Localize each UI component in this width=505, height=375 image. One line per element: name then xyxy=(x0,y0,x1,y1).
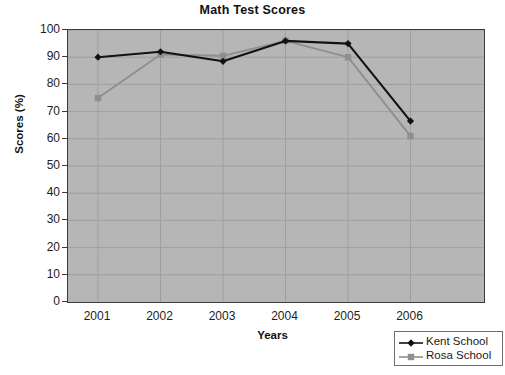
y-tick-mark xyxy=(62,219,67,220)
x-tick-label: 2005 xyxy=(317,309,377,323)
series-group xyxy=(94,37,414,139)
y-tick-mark xyxy=(62,111,67,112)
y-tick-mark xyxy=(62,247,67,248)
y-tick-mark xyxy=(62,83,67,84)
y-tick-mark xyxy=(62,301,67,302)
legend-item[interactable]: Rosa School xyxy=(398,348,499,362)
y-tick-label: 40 xyxy=(20,186,60,198)
y-tick-mark xyxy=(62,56,67,57)
y-tick-label: 70 xyxy=(20,105,60,117)
y-tick-mark xyxy=(62,138,67,139)
y-tick-mark xyxy=(62,165,67,166)
y-tick-label: 60 xyxy=(20,132,60,144)
y-tick-label: 30 xyxy=(20,213,60,225)
plot-svg xyxy=(68,30,484,302)
y-tick-label: 80 xyxy=(20,77,60,89)
gridlines-group xyxy=(68,30,484,302)
y-tick-label: 20 xyxy=(20,241,60,253)
x-tick-label: 2003 xyxy=(192,309,252,323)
x-tick-label: 2006 xyxy=(380,309,440,323)
y-tick-label: 50 xyxy=(20,159,60,171)
x-tick-label: 2004 xyxy=(255,309,315,323)
x-tick-label: 2001 xyxy=(67,309,127,323)
y-tick-label: 90 xyxy=(20,50,60,62)
x-tick-label: 2002 xyxy=(130,309,190,323)
legend-label: Rosa School xyxy=(424,349,491,361)
y-tick-label: 10 xyxy=(20,268,60,280)
legend-swatch-rosa-school xyxy=(398,349,424,361)
y-tick-mark xyxy=(62,192,67,193)
plot-area xyxy=(67,29,485,303)
y-tick-mark xyxy=(62,29,67,30)
chart-title: Math Test Scores xyxy=(0,3,505,17)
y-tick-label: 0 xyxy=(20,295,60,307)
chart-figure: Math Test Scores Scores (%) 100908070605… xyxy=(0,0,505,375)
y-tick-label: 100 xyxy=(20,23,60,35)
x-axis-label: Years xyxy=(60,329,485,341)
y-tick-mark xyxy=(62,274,67,275)
